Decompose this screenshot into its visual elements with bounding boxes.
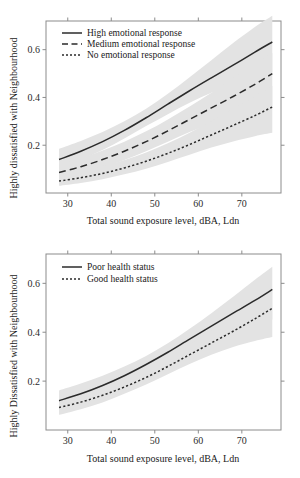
legend-label: Poor health status bbox=[87, 262, 155, 272]
legend-label: Medium emotional response bbox=[87, 39, 195, 49]
two-panel-figure: 30405060700.20.40.6High emotional respon… bbox=[0, 0, 300, 478]
x-tick-label: 70 bbox=[237, 198, 247, 209]
x-tick-label: 50 bbox=[150, 435, 160, 446]
x-tick-label: 60 bbox=[193, 198, 203, 209]
y-axis-title: Highly dissatisfied with Neighbourhood bbox=[8, 38, 19, 199]
x-tick-label: 40 bbox=[106, 198, 116, 209]
chart-panel-top: 30405060700.20.40.6High emotional respon… bbox=[0, 0, 300, 236]
x-tick-label: 40 bbox=[106, 435, 116, 446]
x-tick-label: 70 bbox=[237, 435, 247, 446]
y-tick-label: 0.2 bbox=[28, 140, 41, 151]
y-tick-label: 0.6 bbox=[28, 278, 41, 289]
y-tick-label: 0.6 bbox=[28, 44, 41, 55]
y-axis-title: Highly Dissatisfied with Neighbourhood bbox=[8, 274, 19, 437]
x-tick-label: 30 bbox=[63, 198, 73, 209]
chart-svg-top: 30405060700.20.40.6High emotional respon… bbox=[0, 0, 300, 236]
chart-svg-bottom: 30405060700.20.40.6Poor health statusGoo… bbox=[0, 236, 300, 478]
x-tick-label: 50 bbox=[150, 198, 160, 209]
y-tick-label: 0.4 bbox=[28, 327, 41, 338]
legend-label: No emotional response bbox=[87, 50, 175, 60]
y-tick-label: 0.2 bbox=[28, 376, 41, 387]
chart-panel-bottom: 30405060700.20.40.6Poor health statusGoo… bbox=[0, 236, 300, 478]
x-tick-label: 60 bbox=[193, 435, 203, 446]
x-axis-title: Total sound exposure level, dBA, Ldn bbox=[87, 215, 239, 226]
x-axis-title: Total sound exposure level, dBA, Ldn bbox=[87, 453, 239, 464]
x-tick-label: 30 bbox=[63, 435, 73, 446]
y-tick-label: 0.4 bbox=[28, 92, 41, 103]
legend-label: High emotional response bbox=[87, 28, 182, 38]
legend-label: Good health status bbox=[87, 274, 158, 284]
